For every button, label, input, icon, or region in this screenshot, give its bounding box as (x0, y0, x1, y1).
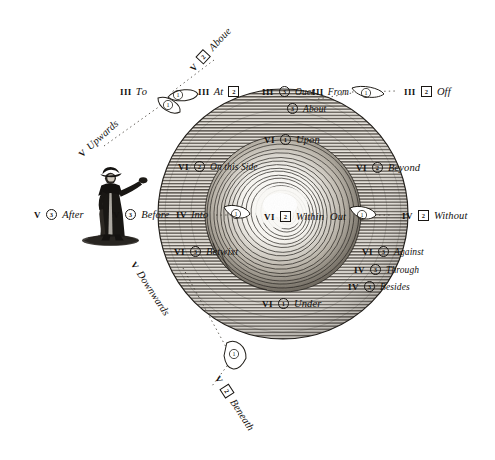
label-betwixt-numeral: 3 (190, 246, 201, 257)
label-at: III At 2 (198, 82, 240, 98)
label-on-this-side-roman: VI (178, 162, 189, 172)
label-through: IV 3 Through (354, 260, 419, 276)
label-on-this-side: VI 2 On this Side (178, 157, 258, 173)
label-after-numeral: 3 (46, 209, 57, 220)
label-betwixt-roman: VI (174, 247, 185, 257)
label-upon-roman: VI (264, 135, 275, 145)
engraved-plate: 1 1 1 1 1 1 (0, 0, 495, 460)
label-to-roman: III (120, 87, 132, 97)
svg-text:1: 1 (361, 212, 364, 218)
label-against-numeral: 3 (378, 246, 389, 257)
label-from: III From (312, 82, 349, 98)
plate-artwork: 1 1 1 1 1 1 (0, 0, 495, 460)
label-out: Out (330, 207, 346, 223)
label-after-roman: V (34, 210, 41, 220)
label-beneath-numeral: 2 (220, 383, 235, 398)
label-beyond-roman: VI (356, 163, 367, 173)
label-betwixt-word: Betwixt (206, 246, 238, 257)
label-beyond-numeral: 2 (372, 162, 383, 173)
label-upon-word: Upon (296, 134, 320, 145)
label-beyond-word: Beyond (388, 162, 420, 173)
label-beyond: VI 2 Beyond (356, 158, 420, 174)
label-after-word: After (62, 209, 84, 220)
label-without-numeral: 2 (418, 210, 429, 221)
label-off-word: Off (437, 86, 451, 97)
label-before: V 3 Before (113, 205, 169, 221)
label-through-word: Through (386, 265, 419, 275)
label-within-roman: VI (264, 212, 275, 222)
label-about: 3 About (286, 99, 326, 115)
label-to-word: Tο (136, 86, 147, 97)
label-within: VI 2 Within (264, 207, 324, 223)
label-against: VI 3 Against (362, 242, 424, 258)
svg-text:1: 1 (177, 92, 180, 98)
label-before-roman: V (113, 210, 120, 220)
label-over-numeral: 3 (279, 86, 290, 97)
label-after: V 3 After (34, 205, 84, 221)
label-upon: VI 1 Upon (264, 130, 320, 146)
label-through-roman: IV (354, 265, 365, 275)
label-on-this-side-word: On this Side (210, 162, 258, 172)
label-at-roman: III (198, 87, 210, 97)
label-before-word: Before (141, 209, 169, 220)
label-against-word: Against (394, 247, 424, 257)
label-from-word: From (328, 87, 349, 97)
label-against-roman: VI (362, 247, 373, 257)
label-at-numeral: 2 (228, 86, 239, 97)
label-over-roman: III (262, 87, 274, 97)
label-about-word: About (303, 104, 326, 114)
label-over: III 3 Ouer (262, 82, 315, 98)
label-off-numeral: 2 (421, 86, 432, 97)
label-within-word: Within (296, 211, 324, 222)
label-under-roman: VI (262, 299, 273, 309)
label-besides: IV 3 Besides (348, 277, 410, 293)
svg-text:1: 1 (365, 90, 368, 96)
label-betwixt: VI 3 Betwixt (174, 242, 238, 258)
label-without-roman: IV (402, 211, 413, 221)
label-within-numeral: 2 (280, 211, 291, 222)
label-off-roman: III (404, 87, 416, 97)
label-from-roman: III (312, 87, 324, 97)
label-into-word: Into (191, 209, 208, 220)
label-without-word: Without (434, 210, 467, 221)
label-under: VI 1 Under (262, 294, 321, 310)
svg-text:1: 1 (167, 102, 170, 108)
label-besides-numeral: 3 (364, 281, 375, 292)
label-off: III 2 Off (404, 82, 451, 98)
svg-text:1: 1 (233, 351, 236, 357)
svg-text:1: 1 (235, 211, 238, 217)
label-into-roman: IV (176, 210, 187, 220)
label-under-numeral: 1 (278, 298, 289, 309)
label-besides-word: Besides (380, 282, 410, 292)
label-upon-numeral: 1 (280, 134, 291, 145)
label-through-numeral: 3 (370, 264, 381, 275)
label-about-numeral: 3 (287, 103, 298, 114)
label-into: IV Into (176, 205, 208, 221)
label-under-word: Under (294, 298, 321, 309)
label-at-word: At (214, 86, 224, 97)
label-out-word: Out (330, 211, 346, 222)
label-without: IV 2 Without (402, 206, 467, 222)
label-besides-roman: IV (348, 282, 359, 292)
label-to: III Tο (120, 82, 147, 98)
label-before-numeral: 3 (125, 209, 136, 220)
label-on-this-side-numeral: 2 (194, 161, 205, 172)
